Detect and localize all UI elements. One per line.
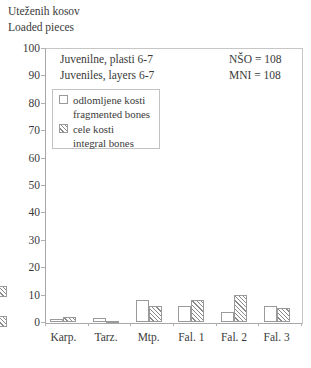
y-tick-mark: [41, 267, 45, 268]
y-tick-label: 20: [8, 260, 40, 274]
y-tick-label: 40: [8, 205, 40, 219]
chart-title-line1: Uteženih kosov: [8, 3, 80, 19]
x-tick-mark: [88, 323, 89, 326]
y-tick-mark: [41, 158, 45, 159]
legend-box: odlomljene kosti fragmented bones cele k…: [52, 89, 160, 149]
plain-swatch-icon: [59, 95, 68, 104]
x-tick-mark: [130, 323, 131, 326]
legend-item-integral: cele kosti integral bones: [59, 122, 159, 150]
y-tick-mark: [41, 185, 45, 186]
y-tick-mark: [41, 240, 45, 241]
y-tick-label: 50: [8, 178, 40, 192]
bar-plain-tarz: [93, 318, 106, 322]
legend-integral-line1: cele kosti: [73, 122, 159, 136]
stat-line1: NŠO = 108: [229, 51, 282, 67]
y-tick-label: 30: [8, 233, 40, 247]
scan-edge-artifact: [0, 286, 7, 297]
bar-hatched-fal2: [234, 295, 247, 322]
chart-title-line2: Loaded pieces: [8, 19, 80, 35]
chart-figure: Uteženih kosov Loaded pieces 01020304050…: [0, 0, 311, 368]
legend-fragmented-line1: odlomljene kosti: [73, 93, 159, 107]
legend-fragmented-line2: fragmented bones: [73, 107, 159, 121]
bar-hatched-tarz: [106, 321, 119, 323]
stat-line2: MNI = 108: [229, 67, 282, 83]
x-tick-mark: [173, 323, 174, 326]
bar-plain-karp: [50, 319, 63, 322]
bar-plain-fal2: [221, 312, 234, 322]
bar-hatched-karp: [63, 317, 76, 322]
subtitle-annotation: Juvenilne, plasti 6-7 Juveniles, layers …: [60, 51, 154, 83]
x-tick-mark: [45, 323, 46, 326]
legend-item-fragmented: odlomljene kosti fragmented bones: [59, 93, 159, 121]
x-tick-mark: [258, 323, 259, 326]
y-tick-mark: [41, 295, 45, 296]
legend-integral-line2: integral bones: [73, 136, 159, 150]
y-tick-label: 10: [8, 288, 40, 302]
x-tick-mark: [216, 323, 217, 326]
stats-annotation: NŠO = 108 MNI = 108: [229, 51, 282, 83]
scan-edge-artifact: [0, 316, 7, 327]
x-category-label: Fal. 3: [252, 330, 302, 344]
bar-hatched-fal1: [191, 300, 204, 322]
bar-plain-mtp: [136, 300, 149, 322]
y-tick-label: 60: [8, 151, 40, 165]
bar-plain-fal1: [178, 306, 191, 322]
y-tick-label: 0: [8, 315, 40, 329]
hatched-swatch-icon: [59, 124, 68, 133]
y-tick-label: 70: [8, 123, 40, 137]
y-tick-mark: [41, 103, 45, 104]
subtitle-line2: Juveniles, layers 6-7: [60, 67, 154, 83]
y-tick-label: 90: [8, 68, 40, 82]
y-tick-mark: [41, 130, 45, 131]
y-tick-mark: [41, 212, 45, 213]
y-tick-mark: [41, 75, 45, 76]
bar-hatched-fal3: [277, 308, 290, 322]
subtitle-line1: Juvenilne, plasti 6-7: [60, 51, 154, 67]
bar-plain-fal3: [264, 306, 277, 322]
y-tick-label: 80: [8, 96, 40, 110]
x-tick-mark: [301, 323, 302, 326]
y-tick-label: 100: [8, 41, 40, 55]
y-tick-mark: [41, 48, 45, 49]
bar-hatched-mtp: [149, 306, 162, 322]
chart-title: Uteženih kosov Loaded pieces: [8, 3, 80, 35]
